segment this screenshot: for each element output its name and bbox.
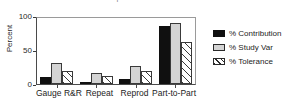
bar-group xyxy=(116,18,156,84)
y-axis-tick-labels: 050100 xyxy=(8,0,32,104)
plot-frame xyxy=(36,17,196,85)
x-axis-tick-labels: Gauge R&RRepeatReprodPart-to-Part xyxy=(36,88,196,100)
chart-title: Components of Variation xyxy=(60,0,230,2)
chart-legend: % Contribution% Study Var% Tolerance xyxy=(213,27,293,69)
x-tick-label: Part-to-Part xyxy=(152,88,196,100)
components-of-variation-chart: Components of Variation Percent 050100 G… xyxy=(0,0,293,104)
y-tick-mark xyxy=(33,51,36,52)
bar-group xyxy=(77,18,117,84)
bar xyxy=(119,79,130,84)
bar-group xyxy=(37,18,77,84)
bar xyxy=(80,82,91,84)
legend-label: % Tolerance xyxy=(229,57,273,66)
bar xyxy=(62,71,73,84)
bar xyxy=(91,73,102,84)
x-tick-label: Reprod xyxy=(117,88,152,100)
bar xyxy=(130,66,141,84)
bar xyxy=(102,76,113,84)
legend-swatch-icon xyxy=(213,30,225,37)
legend-item: % Tolerance xyxy=(213,55,293,67)
bar xyxy=(141,71,152,84)
x-tick-label: Repeat xyxy=(82,88,117,100)
plot-area xyxy=(37,18,195,84)
legend-swatch-icon xyxy=(213,58,225,65)
bar xyxy=(40,77,51,84)
bar-group xyxy=(156,18,196,84)
y-tick-mark xyxy=(33,17,36,18)
y-tick-label: 100 xyxy=(10,13,32,21)
bar xyxy=(51,63,62,84)
legend-label: % Contribution xyxy=(229,29,281,38)
legend-item: % Contribution xyxy=(213,27,293,39)
legend-item: % Study Var xyxy=(213,41,293,53)
y-tick-mark xyxy=(33,85,36,86)
y-tick-label: 50 xyxy=(10,47,32,55)
bar xyxy=(170,23,181,84)
bar xyxy=(181,42,192,84)
y-tick-label: 0 xyxy=(10,81,32,89)
bar xyxy=(159,26,170,84)
x-tick-label: Gauge R&R xyxy=(36,88,82,100)
legend-swatch-icon xyxy=(213,44,225,51)
legend-label: % Study Var xyxy=(229,43,273,52)
